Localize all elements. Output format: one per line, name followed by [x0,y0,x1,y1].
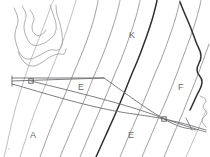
label-f-right: F [178,82,184,92]
label-k: K [129,30,135,40]
label-e-mid: E [78,82,84,92]
scan-speck-icon [196,11,197,12]
scanned-diagram-canvas: KFEAE [0,0,210,157]
contour-map-svg: KFEAE [0,0,210,157]
scan-speck-icon [61,150,62,151]
scan-speck-icon [8,148,9,149]
label-a-left: A [30,130,36,140]
label-e-bottom: E [128,130,134,140]
